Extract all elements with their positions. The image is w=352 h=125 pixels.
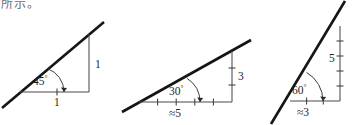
triangle-45-group: 45° 1 1 — [2, 22, 104, 108]
triangle-45-angle-arc — [48, 69, 64, 92]
triangle-60-run-label: ≈3 — [297, 106, 309, 118]
triangle-45-angle-value: 45 — [33, 75, 45, 87]
triangle-60-group: 60° ≈3 5 — [271, 1, 345, 124]
triangle-30-run-label: ≈5 — [169, 107, 181, 119]
triangle-60-angle-value: 60 — [292, 84, 304, 96]
triangle-30-rise-label: 3 — [238, 70, 244, 82]
triangle-60-angle-label: 60° — [292, 83, 307, 96]
triangle-30-angle-label: 30° — [169, 84, 184, 97]
figure-root: 所示。 45° 1 1 — [0, 0, 352, 125]
triangle-60-rise-label: 5 — [329, 52, 335, 64]
triangle-30-arc-arrowhead — [197, 98, 203, 103]
triangle-45-rise-label: 1 — [95, 58, 101, 70]
triangle-45-degree-symbol: ° — [45, 74, 48, 83]
triangle-30-group: 30° ≈5 3 — [122, 40, 251, 119]
triangle-45-angle-label: 45° — [33, 74, 48, 87]
triangle-45-run-label: 1 — [54, 96, 60, 108]
triangle-60-degree-symbol: ° — [304, 83, 307, 92]
triangles-figure: 45° 1 1 30° ≈5 3 — [0, 0, 352, 125]
triangle-45-arc-arrowhead — [61, 88, 67, 93]
triangle-30-degree-symbol: ° — [181, 84, 184, 93]
triangle-30-angle-value: 30 — [169, 85, 181, 97]
